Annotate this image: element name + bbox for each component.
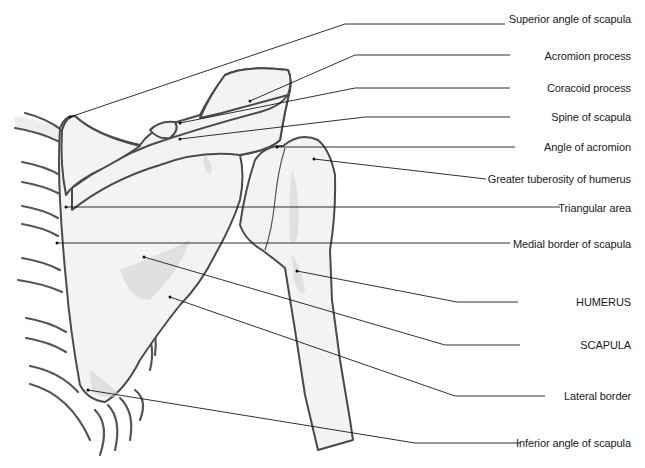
label-humerus: HUMERUS (576, 296, 631, 309)
label-medial-border: Medial border of scapula (513, 238, 631, 251)
label-angle-of-acromion: Angle of acromion (544, 141, 631, 154)
label-acromion-process: Acromion process (545, 50, 631, 63)
shoulder-anatomy-drawing (0, 0, 645, 468)
label-inferior-angle: Inferior angle of scapula (516, 437, 631, 450)
label-spine-of-scapula: Spine of scapula (551, 111, 631, 124)
label-triangular-area: Triangular area (558, 202, 631, 215)
humerus-bone (240, 137, 353, 450)
label-greater-tuberosity: Greater tuberosity of humerus (488, 173, 631, 186)
label-lateral-border: Lateral border (564, 390, 631, 403)
label-scapula: SCAPULA (580, 339, 631, 352)
label-superior-angle: Superior angle of scapula (509, 13, 631, 26)
label-coracoid-process: Coracoid process (547, 82, 631, 95)
